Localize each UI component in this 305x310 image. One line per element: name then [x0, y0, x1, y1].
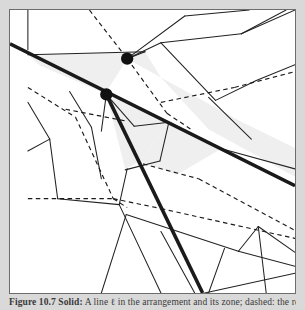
vertex-upper	[121, 52, 133, 64]
arrangement-line-28	[101, 215, 126, 293]
arrangement-line-23	[58, 199, 120, 205]
arrangement-line-5	[161, 34, 241, 43]
dashed-line-8	[161, 209, 295, 239]
dashed-line-3	[28, 87, 76, 117]
arrangement-line-35	[209, 248, 225, 293]
arrangement-line-3	[127, 16, 185, 59]
figure-caption-label: Figure 10.7	[9, 297, 56, 307]
arrangement-line-11	[185, 10, 250, 16]
vertex-lower	[100, 88, 112, 100]
arrangement-line-21	[28, 139, 50, 151]
dashed-line-0	[89, 10, 127, 59]
thick-lines-group	[10, 44, 295, 293]
arrangement-line-32	[238, 226, 258, 251]
arrangement-line-24	[119, 169, 127, 205]
figure-caption: Figure 10.7 Solid: A line ℓ in the arran…	[9, 297, 296, 308]
arrangement-line-22	[50, 139, 58, 199]
figure-caption-lead: Solid:	[58, 297, 82, 307]
arrangement-line-25	[70, 91, 92, 127]
arrangement-line-33	[258, 226, 295, 252]
dashed-line-10	[234, 72, 295, 88]
dashed-line-12	[199, 179, 295, 231]
figure-caption-text: A line ℓ in the arrangement and its zone…	[85, 297, 296, 307]
arrangement-line-29	[126, 215, 238, 252]
dashed-line-4	[76, 117, 114, 198]
arrangement-line-6	[241, 10, 286, 34]
arrangement-diagram	[10, 10, 295, 293]
arrangement-line-7	[161, 43, 216, 101]
figure-root: Figure 10.7 Solid: A line ℓ in the arran…	[0, 0, 305, 310]
plot-frame	[9, 9, 296, 294]
arrangement-line-20	[28, 102, 50, 139]
arrangement-line-30	[238, 251, 295, 266]
arrangement-line-34	[258, 226, 266, 293]
arrangement-line-36	[205, 273, 295, 293]
arrangement-line-10	[241, 10, 295, 34]
